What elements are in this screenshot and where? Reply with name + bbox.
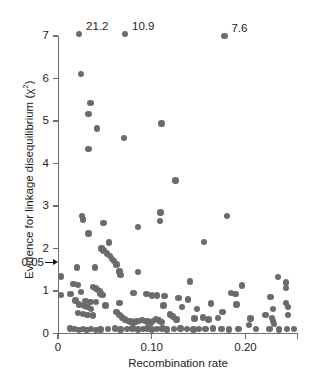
x-tick-0: [57, 334, 58, 339]
data-point: [285, 312, 291, 318]
data-point: [93, 299, 99, 305]
data-point: [117, 272, 123, 278]
data-point: [97, 326, 103, 332]
point-annotation: 7.6: [231, 23, 247, 35]
data-point: [191, 315, 197, 321]
x-axis-ticklabel: 0: [55, 342, 61, 354]
y-axis-ticklabel: 0: [43, 328, 49, 340]
data-point: [160, 302, 166, 308]
data-point: [235, 326, 241, 332]
data-point: [78, 289, 84, 295]
data-point: [121, 135, 127, 141]
data-point: [88, 306, 94, 312]
data-point: [158, 120, 164, 126]
y-tick-1: [53, 290, 58, 291]
data-point: [172, 177, 178, 183]
data-point: [201, 239, 207, 245]
data-point: [99, 292, 105, 298]
point-annotation: 10.9: [132, 21, 154, 33]
data-point: [276, 326, 282, 332]
data-point: [76, 31, 82, 37]
y-tick-7: [53, 35, 58, 36]
y-axis-ticklabel: 7: [43, 30, 49, 42]
data-point: [105, 326, 111, 332]
data-point: [179, 304, 185, 310]
data-point: [85, 111, 91, 117]
y-tick-4: [53, 163, 58, 164]
y-tick-6: [53, 78, 58, 79]
data-point: [239, 282, 245, 288]
data-point: [117, 326, 123, 332]
data-point: [284, 326, 290, 332]
y-tick-2: [53, 248, 58, 249]
data-point: [74, 264, 80, 270]
data-point: [94, 125, 100, 131]
data-point: [58, 292, 64, 298]
data-point: [67, 291, 73, 297]
data-point: [226, 326, 232, 332]
data-point: [135, 269, 141, 275]
data-point: [247, 315, 253, 321]
x-axis-end-tick: [297, 334, 298, 339]
point-annotation: 21.2: [86, 21, 108, 33]
y-tick-3: [53, 205, 58, 206]
data-point: [224, 213, 230, 219]
x-axis-ticklabel: 0.20: [234, 342, 256, 354]
data-point: [171, 326, 177, 332]
data-point: [177, 325, 183, 331]
data-point: [184, 326, 190, 332]
data-point: [285, 304, 291, 310]
data-point: [116, 300, 122, 306]
data-point: [185, 296, 191, 302]
data-point: [194, 306, 200, 312]
y-axis-title: Evidence for linkage disequilibrium (χ2): [22, 45, 35, 315]
data-point: [187, 278, 193, 284]
data-point: [233, 301, 239, 307]
data-point: [232, 291, 238, 297]
data-point: [253, 326, 259, 332]
data-point: [173, 316, 179, 322]
arrow-right-icon: [45, 258, 58, 267]
data-point: [106, 239, 112, 245]
data-point: [90, 312, 96, 318]
x-tick-0.20: [245, 334, 246, 339]
data-point: [102, 302, 108, 308]
data-point: [205, 316, 211, 322]
data-point: [161, 293, 167, 299]
data-point: [208, 300, 214, 306]
data-point: [85, 230, 91, 236]
data-point: [218, 326, 224, 332]
data-point: [92, 264, 98, 270]
data-point: [291, 326, 297, 332]
data-point: [164, 326, 170, 332]
data-point: [283, 285, 289, 291]
y-axis-ticklabel: 3: [43, 200, 49, 212]
x-axis-title: Recombination rate: [58, 358, 298, 370]
data-point: [221, 33, 227, 39]
y-axis-ticklabel: 4: [43, 158, 49, 170]
data-point: [202, 326, 208, 332]
data-point: [215, 315, 221, 321]
data-point: [275, 274, 281, 280]
data-point: [196, 326, 202, 332]
data-point: [85, 146, 91, 152]
data-point: [100, 220, 106, 226]
data-point: [80, 216, 86, 222]
data-point: [157, 209, 163, 215]
data-point: [75, 282, 81, 288]
data-point: [122, 31, 128, 37]
data-point: [210, 325, 216, 331]
data-point: [78, 71, 84, 77]
y-axis-line: [58, 36, 59, 334]
data-point: [157, 218, 163, 224]
y-axis-ticklabel: 6: [43, 73, 49, 85]
y-axis-ticklabel: 1: [43, 285, 49, 297]
data-point: [154, 292, 160, 298]
data-point: [267, 294, 273, 300]
data-point: [270, 306, 276, 312]
data-point: [135, 224, 141, 230]
data-point: [175, 295, 181, 301]
y-axis-ticklabel: 5: [43, 115, 49, 127]
data-point: [266, 326, 272, 332]
x-axis-ticklabel: 0.10: [141, 342, 163, 354]
